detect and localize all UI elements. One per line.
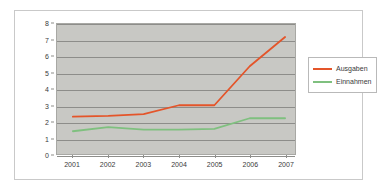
legend-label: Einnahmen: [336, 78, 371, 85]
y-tick-mark: [51, 39, 54, 40]
y-tick-label: 7: [45, 36, 49, 43]
y-tick-label: 2: [45, 119, 49, 126]
x-tick-mark: [215, 155, 216, 158]
y-tick-mark: [51, 105, 54, 106]
y-tick-mark: [51, 23, 54, 24]
series-lines: [57, 24, 295, 154]
y-tick-label: 3: [45, 102, 49, 109]
chart-frame: 012345678 2001200220032004200520062007 A…: [14, 10, 363, 180]
legend-color-swatch: [313, 81, 332, 83]
x-tick-mark: [250, 155, 251, 158]
x-tick-label: 2007: [278, 161, 294, 168]
legend-item[interactable]: Ausgaben: [313, 62, 371, 75]
x-tick-mark: [179, 155, 180, 158]
y-tick-mark: [51, 155, 54, 156]
y-tick-mark: [51, 138, 54, 139]
x-tick-label: 2005: [207, 161, 223, 168]
series-line: [73, 118, 285, 131]
y-tick-label: 0: [45, 152, 49, 159]
plot-area: [56, 23, 296, 155]
x-tick-label: 2003: [136, 161, 152, 168]
legend-color-swatch: [313, 68, 332, 70]
chart-legend: AusgabenEinnahmen: [308, 57, 377, 93]
x-tick-label: 2006: [243, 161, 259, 168]
legend-label: Ausgaben: [336, 65, 368, 72]
y-tick-label: 8: [45, 20, 49, 27]
x-axis: 2001200220032004200520062007: [56, 155, 296, 177]
x-tick-label: 2002: [100, 161, 116, 168]
x-tick-mark: [72, 155, 73, 158]
x-tick-label: 2001: [64, 161, 80, 168]
y-tick-mark: [51, 56, 54, 57]
y-tick-label: 5: [45, 69, 49, 76]
y-tick-mark: [51, 72, 54, 73]
legend-item[interactable]: Einnahmen: [313, 75, 371, 88]
y-tick-label: 1: [45, 135, 49, 142]
x-tick-mark: [108, 155, 109, 158]
y-tick-label: 4: [45, 86, 49, 93]
x-tick-label: 2004: [171, 161, 187, 168]
y-tick-mark: [51, 122, 54, 123]
y-tick-mark: [51, 89, 54, 90]
y-axis: 012345678: [15, 23, 54, 155]
x-tick-mark: [286, 155, 287, 158]
series-line: [73, 37, 285, 117]
x-tick-mark: [143, 155, 144, 158]
y-tick-label: 6: [45, 53, 49, 60]
